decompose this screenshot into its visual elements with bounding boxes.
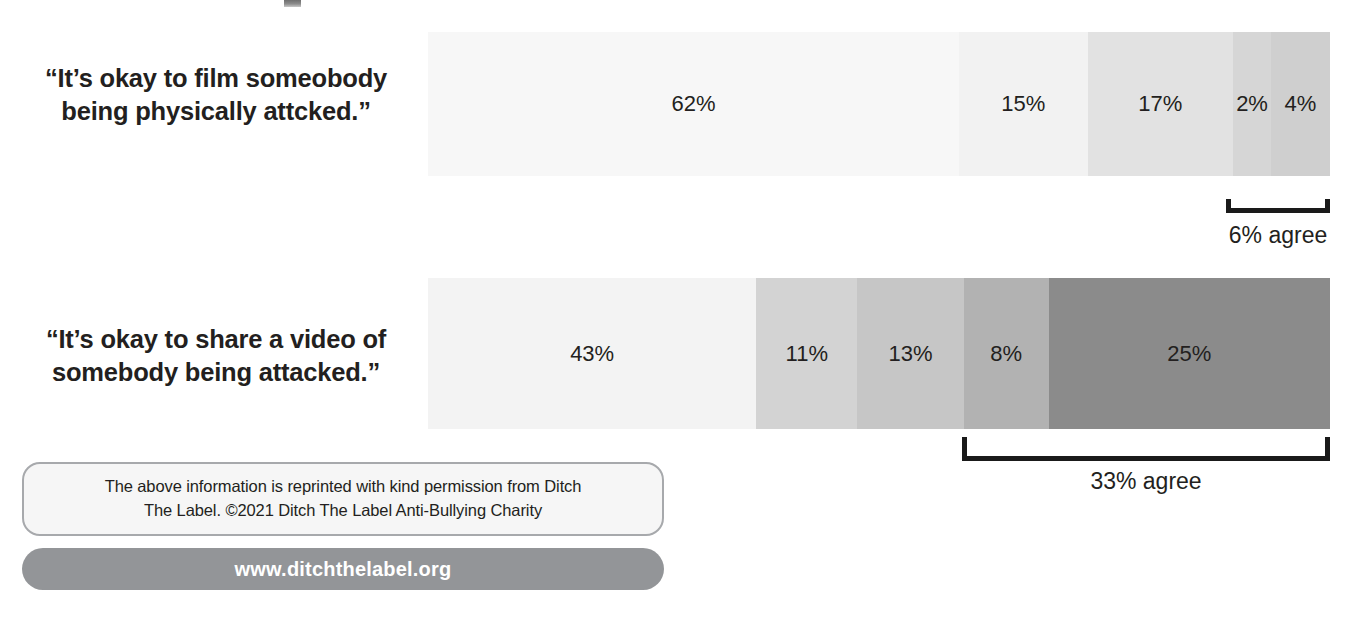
bar-segment-share-4: 8% [964,278,1049,429]
bar-segment-film-2-value: 15% [1001,91,1045,117]
agree-bracket-share [962,437,1330,461]
agree-bracket-film [1226,199,1330,213]
bar-segment-film-5: 4% [1271,32,1330,176]
bar-segment-film-5-value: 4% [1285,91,1317,117]
stacked-bar-share: 43% 11% 13% 8% 25% [428,278,1330,429]
bar-segment-film-4: 2% [1233,32,1271,176]
bar-category-label-film-line2: being physically attcked.” [16,95,416,128]
bar-segment-film-3: 17% [1088,32,1234,176]
bar-category-label-share-line2: somebody being attacked.” [16,356,416,389]
agree-bracket-share-label: 33% agree [1054,468,1238,495]
bar-segment-share-5: 25% [1049,278,1330,429]
bar-segment-film-1: 62% [428,32,959,176]
bar-segment-film-2: 15% [959,32,1087,176]
scan-artifact-mark [284,0,301,7]
website-url-text[interactable]: www.ditchthelabel.org [235,558,452,581]
bar-segment-share-3: 13% [857,278,963,429]
bar-segment-film-3-value: 17% [1138,91,1182,117]
bar-segment-share-1-value: 43% [570,341,614,367]
stacked-bar-film: 62% 15% 17% 2% 4% [428,32,1330,176]
bar-category-label-film-line1: “It’s okay to film someobody [16,62,416,95]
bar-category-label-share-line1: “It’s okay to share a video of [16,323,416,356]
credit-box: The above information is reprinted with … [22,462,664,536]
agree-bracket-film-label: 6% agree [1186,222,1352,249]
credit-text-line1: The above information is reprinted with … [105,475,582,499]
website-url-bar[interactable]: www.ditchthelabel.org [22,548,664,590]
credit-text: The above information is reprinted with … [89,475,598,523]
bar-category-label-share: “It’s okay to share a video of somebody … [16,323,416,389]
bar-segment-film-4-value: 2% [1236,91,1268,117]
bar-segment-share-4-value: 8% [990,341,1022,367]
bar-segment-share-2-value: 11% [786,341,828,367]
credit-text-line2: The Label. ©2021 Ditch The Label Anti-Bu… [105,499,582,523]
bar-segment-share-5-value: 25% [1167,341,1211,367]
bar-segment-share-1: 43% [428,278,756,429]
bar-segment-share-2: 11% [756,278,857,429]
bar-segment-film-1-value: 62% [672,91,716,117]
bar-category-label-film: “It’s okay to film someobody being physi… [16,62,416,128]
bar-segment-share-3-value: 13% [889,341,933,367]
